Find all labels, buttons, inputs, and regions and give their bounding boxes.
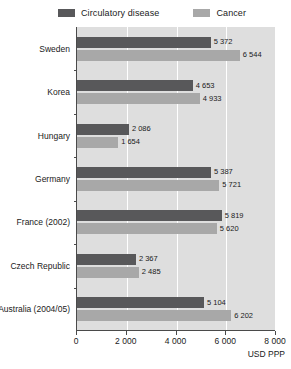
bar [77, 137, 118, 148]
bar-value-label: 2 485 [142, 268, 161, 276]
bar [77, 50, 240, 61]
bar-group-circulatory-disease: 5 387 [77, 167, 275, 178]
category-label-czech-republic: Czech Republic [10, 261, 70, 271]
bar-group-cancer: 5 620 [77, 223, 275, 234]
category-tick [74, 114, 77, 115]
bar [77, 310, 231, 321]
x-tick-label: 0 [74, 336, 79, 346]
category-label-hungary: Hungary [38, 131, 70, 141]
bar [77, 254, 136, 265]
bar-group-cancer: 6 544 [77, 50, 275, 61]
bar-group-circulatory-disease: 2 086 [77, 124, 275, 135]
bar-group-cancer: 2 485 [77, 267, 275, 278]
bar [77, 93, 200, 104]
category-axis-labels: SwedenKoreaHungaryGermanyFrance (2002)Cz… [0, 27, 73, 331]
category-label-korea: Korea [47, 87, 70, 97]
category-label-france-2002: France (2002) [17, 217, 70, 227]
bar-row: 5 3875 721 [77, 157, 275, 200]
x-tick-label: 8 000 [264, 336, 285, 346]
bar-value-label: 5 387 [214, 168, 233, 176]
category-tick [74, 157, 77, 158]
category-tick [74, 201, 77, 202]
bar-value-label: 5 104 [207, 299, 226, 307]
plot-area: 5 3726 5444 6534 9332 0861 6545 3875 721… [76, 27, 275, 331]
x-tick-label: 4 000 [165, 336, 186, 346]
bar-group-circulatory-disease: 5 372 [77, 37, 275, 48]
chart-legend: Circulatory disease Cancer [56, 4, 288, 22]
bar-group-circulatory-disease: 5 104 [77, 297, 275, 308]
bar-group-circulatory-disease: 2 367 [77, 254, 275, 265]
bar-row: 2 0861 654 [77, 114, 275, 157]
bar-value-label: 5 819 [225, 212, 244, 220]
x-tick-label: 2 000 [115, 336, 136, 346]
bar-row: 5 3726 544 [77, 27, 275, 70]
bar-row: 4 6534 933 [77, 70, 275, 113]
bar-group-cancer: 4 933 [77, 93, 275, 104]
bar [77, 210, 222, 221]
bar-value-label: 1 654 [121, 138, 140, 146]
bar-value-label: 2 367 [139, 255, 158, 263]
bar [77, 267, 139, 278]
bar-value-label: 6 202 [234, 312, 253, 320]
category-label-sweden: Sweden [39, 44, 70, 54]
legend-label-circulatory-disease: Circulatory disease [81, 8, 159, 18]
x-axis-labels: 02 0004 0006 0008 000 [0, 336, 291, 348]
category-label-australia-2004-05: Australia (2004/05) [0, 304, 70, 314]
legend-label-cancer: Cancer [216, 8, 246, 18]
x-tick [176, 331, 177, 335]
x-tick [225, 331, 226, 335]
bar-value-label: 4 933 [203, 95, 222, 103]
x-tick [275, 331, 276, 335]
bar-value-label: 2 086 [132, 125, 151, 133]
gridline [276, 27, 277, 330]
bar-group-circulatory-disease: 4 653 [77, 80, 275, 91]
x-tick [76, 331, 77, 335]
bar-group-circulatory-disease: 5 819 [77, 210, 275, 221]
category-tick [74, 244, 77, 245]
bar [77, 124, 129, 135]
x-tick-label: 6 000 [215, 336, 236, 346]
legend-swatch-circulatory-disease [58, 9, 75, 17]
bar [77, 37, 211, 48]
x-tick [126, 331, 127, 335]
bar-row: 5 1046 202 [77, 288, 275, 331]
bar-group-cancer: 6 202 [77, 310, 275, 321]
bar-chart: Circulatory disease Cancer SwedenKoreaHu… [0, 0, 291, 369]
bar-rows: 5 3726 5444 6534 9332 0861 6545 3875 721… [77, 27, 275, 330]
bar [77, 180, 219, 191]
bar [77, 223, 217, 234]
category-label-germany: Germany [35, 174, 70, 184]
bar-value-label: 4 653 [196, 82, 215, 90]
bar-value-label: 6 544 [243, 51, 262, 59]
legend-item-cancer: Cancer [193, 8, 246, 18]
bar-value-label: 5 372 [214, 38, 233, 46]
bar-value-label: 5 620 [220, 225, 239, 233]
x-axis-unit-label: USD PPP [0, 349, 285, 359]
bar [77, 167, 211, 178]
bar-row: 2 3672 485 [77, 244, 275, 287]
bar-value-label: 5 721 [222, 181, 241, 189]
bar-group-cancer: 5 721 [77, 180, 275, 191]
legend-swatch-cancer [193, 9, 210, 17]
category-tick [74, 288, 77, 289]
bar-group-cancer: 1 654 [77, 137, 275, 148]
category-tick [74, 70, 77, 71]
legend-item-circulatory-disease: Circulatory disease [58, 8, 159, 18]
x-axis-ticks [76, 331, 275, 335]
bar [77, 80, 193, 91]
bar-row: 5 8195 620 [77, 201, 275, 244]
bar [77, 297, 204, 308]
